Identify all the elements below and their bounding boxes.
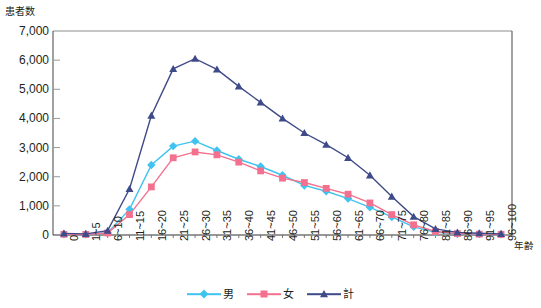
x-axis-tick-label: 71~75 xyxy=(396,210,408,241)
x-axis-tick-label: 11~15 xyxy=(134,211,146,241)
x-axis-tick-label: 16~20 xyxy=(156,210,168,241)
x-axis-tick-label: 51~55 xyxy=(309,210,321,241)
data-point-marker xyxy=(410,221,417,228)
y-axis-tick-label: 3,000 xyxy=(19,141,49,155)
legend-marker-triangle-icon xyxy=(318,288,330,300)
x-axis-tick-label: 66~70 xyxy=(374,210,386,241)
data-point-marker xyxy=(191,137,199,145)
y-axis-tick-label: 6,000 xyxy=(19,53,49,67)
legend-item-男[interactable]: 男 xyxy=(187,288,234,300)
data-point-marker xyxy=(148,184,155,191)
legend-swatch xyxy=(187,288,221,300)
data-point-marker xyxy=(214,151,221,158)
patient-count-by-age-line-chart: 患者数 年齢 01,0002,0003,0004,0005,0006,0007,… xyxy=(0,0,541,308)
x-axis-tick-label: 46~50 xyxy=(287,210,299,241)
data-point-marker xyxy=(322,141,330,148)
data-point-marker xyxy=(169,65,177,72)
y-axis-tick-labels: 01,0002,0003,0004,0005,0006,0007,000 xyxy=(0,0,49,308)
x-axis-tick-label: 76~80 xyxy=(418,210,430,241)
legend-marker-diamond-icon xyxy=(198,288,210,300)
x-axis-tick-label: 0 xyxy=(68,235,80,241)
x-axis-tick-label: 21~25 xyxy=(178,210,190,241)
chart-legend: 男女計 xyxy=(0,288,541,300)
data-point-marker xyxy=(126,211,133,218)
x-axis-tick-label: 31~35 xyxy=(221,210,233,241)
x-axis-tick-label: 86~90 xyxy=(462,210,474,241)
data-point-marker xyxy=(170,154,177,161)
legend-label: 女 xyxy=(283,289,294,300)
data-point-marker xyxy=(344,154,352,161)
x-axis-tick-label: 61~65 xyxy=(353,210,365,241)
x-axis-tick-label: 6~10 xyxy=(112,216,124,241)
data-point-marker xyxy=(301,179,308,186)
x-axis-tick-label: 36~40 xyxy=(243,210,255,241)
plot-area xyxy=(0,0,541,308)
data-point-marker xyxy=(367,200,374,207)
data-point-marker xyxy=(191,55,199,62)
data-point-marker xyxy=(388,211,395,218)
series-男 xyxy=(60,137,506,239)
data-point-marker xyxy=(213,65,221,72)
x-axis-tick-label: 81~85 xyxy=(440,210,452,241)
data-point-marker xyxy=(192,149,199,156)
data-point-marker xyxy=(235,159,242,166)
x-axis-tick-label: 1~5 xyxy=(90,222,102,241)
y-axis-tick-label: 5,000 xyxy=(19,82,49,96)
x-axis-tick-label: 96~100 xyxy=(506,204,518,241)
data-point-marker xyxy=(279,175,286,182)
data-point-marker xyxy=(279,114,287,121)
data-point-marker xyxy=(300,129,308,136)
x-axis-tick-label: 56~60 xyxy=(331,210,343,241)
legend-marker-square-icon xyxy=(258,288,270,300)
series-line xyxy=(64,152,501,234)
data-point-marker xyxy=(345,191,352,198)
data-point-marker xyxy=(126,185,134,192)
y-axis-tick-label: 2,000 xyxy=(19,170,49,184)
y-axis-tick-label: 0 xyxy=(42,228,49,242)
data-point-marker xyxy=(257,98,265,105)
y-axis-tick-label: 4,000 xyxy=(19,111,49,125)
legend-item-計[interactable]: 計 xyxy=(307,288,354,300)
legend-label: 男 xyxy=(223,289,234,300)
data-point-marker xyxy=(257,167,264,174)
data-point-marker xyxy=(147,112,155,119)
x-axis-tick-label: 41~45 xyxy=(265,210,277,241)
legend-swatch xyxy=(307,288,341,300)
data-point-marker xyxy=(323,185,330,192)
legend-item-女[interactable]: 女 xyxy=(247,288,294,300)
x-axis-tick-label: 26~30 xyxy=(200,210,212,241)
y-axis-tick-label: 7,000 xyxy=(19,24,49,38)
y-axis-tick-label: 1,000 xyxy=(19,199,49,213)
x-axis-tick-label: 91~95 xyxy=(484,210,496,241)
legend-label: 計 xyxy=(343,289,354,300)
legend-swatch xyxy=(247,288,281,300)
